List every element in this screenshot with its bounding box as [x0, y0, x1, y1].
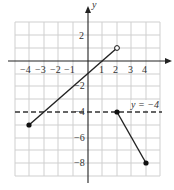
y-tick-label: −4 [74, 107, 85, 117]
x-tick-label: −3 [35, 65, 46, 75]
x-tick-label: 4 [142, 65, 147, 75]
x-tick-label: −2 [50, 65, 61, 75]
closed-point-icon [114, 109, 119, 114]
x-tick-label: 1 [99, 65, 104, 75]
y-axis-label: y [92, 0, 96, 10]
closed-point-icon [143, 160, 148, 165]
axes [8, 8, 168, 183]
x-axis-arrow-icon [165, 58, 172, 64]
x-tick-label: 2 [113, 65, 118, 75]
y-tick-label: 2 [79, 31, 84, 41]
closed-point-icon [26, 122, 31, 127]
y-axis-arrow-icon [85, 6, 91, 13]
asymptote-label: y = −4 [131, 100, 159, 110]
graph-canvas [0, 0, 174, 190]
open-point-icon [115, 46, 120, 51]
x-tick-label: 3 [128, 65, 133, 75]
x-tick-label: −1 [64, 65, 75, 75]
y-tick-label: −2 [74, 81, 85, 91]
x-tick-label: −4 [20, 65, 31, 75]
y-tick-label: −6 [74, 133, 85, 143]
y-tick-label: −8 [74, 158, 85, 168]
